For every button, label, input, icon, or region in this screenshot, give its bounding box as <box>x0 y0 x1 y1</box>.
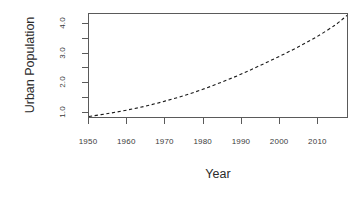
y-tick-label: 3.0 <box>58 47 67 59</box>
y-axis-title: Urban Population <box>23 17 37 114</box>
urban-population-line <box>89 15 347 116</box>
x-tick-label: 1980 <box>193 137 212 146</box>
y-tick-label: 2.0 <box>58 76 67 88</box>
chart-figure: Urban Population Year 1.02.03.04.0 19501… <box>0 0 363 197</box>
x-axis-title: Year <box>205 167 230 181</box>
data-layer <box>89 14 347 117</box>
x-tick-label: 1970 <box>155 137 174 146</box>
x-tick-label: 1960 <box>117 137 136 146</box>
x-tick-mark <box>203 118 204 124</box>
x-tick-label: 1990 <box>232 137 251 146</box>
x-tick-mark <box>241 118 242 124</box>
y-tick-label: 4.0 <box>58 17 67 29</box>
y-tick-label: 1.0 <box>58 106 67 118</box>
x-tick-mark <box>279 118 280 124</box>
x-tick-mark <box>164 118 165 124</box>
x-tick-label: 2010 <box>308 137 327 146</box>
x-tick-mark <box>126 118 127 124</box>
plot-area <box>88 13 348 118</box>
x-tick-mark <box>88 118 89 124</box>
x-tick-label: 1950 <box>79 137 98 146</box>
x-tick-label: 2000 <box>270 137 289 146</box>
x-tick-mark <box>317 118 318 124</box>
